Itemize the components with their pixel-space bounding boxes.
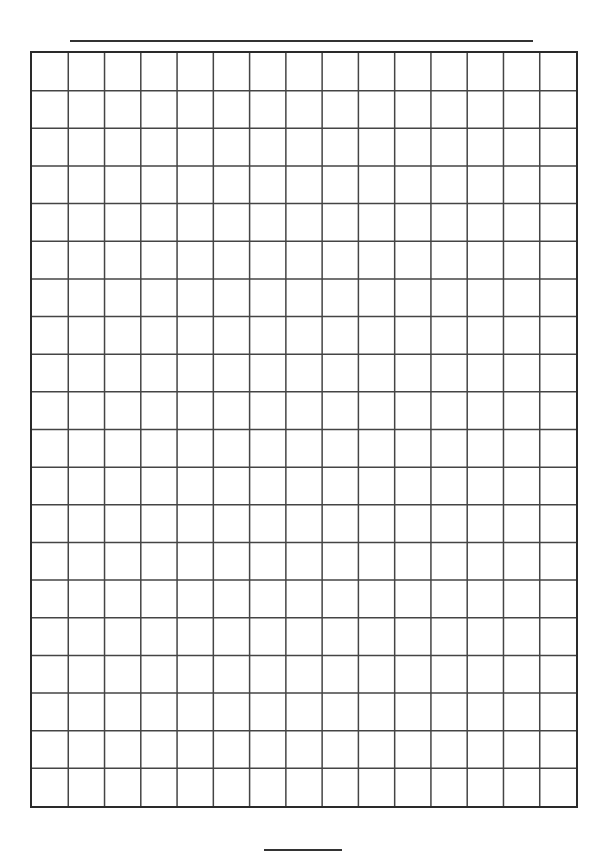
title-blank-line: [70, 40, 533, 42]
grid-lines: [32, 53, 576, 806]
page-number-blank-line: [264, 849, 342, 851]
graph-grid: [30, 51, 578, 808]
